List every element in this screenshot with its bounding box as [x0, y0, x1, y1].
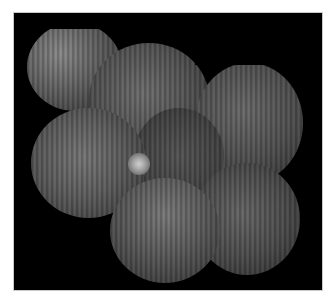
- tile-flat-edge-mask-right: [195, 13, 305, 65]
- retina-tile-inferior-center: [110, 178, 220, 283]
- fundus-montage-frame: [13, 12, 323, 291]
- optic-disc: [128, 153, 150, 175]
- tile-flat-edge-mask: [27, 13, 147, 29]
